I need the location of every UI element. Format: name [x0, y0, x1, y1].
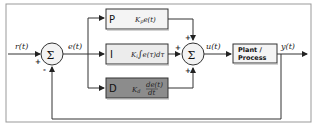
svg-text:de(t): de(t) — [146, 81, 163, 89]
plant-block: Plant / Process — [233, 44, 278, 64]
svg-text:P: P — [109, 14, 115, 25]
sigma-icon: Σ — [188, 49, 196, 62]
output-label: y(t) — [280, 42, 295, 51]
d-block: D Kd de(t) dt — [106, 78, 169, 99]
svg-text:D: D — [109, 83, 117, 94]
reference-label: r(t) — [15, 42, 28, 51]
p-block: P Kpe(t) — [106, 9, 169, 30]
minus-sign: - — [43, 66, 46, 74]
plus-sign: + — [175, 44, 181, 52]
summing-junction-2: Σ — [182, 43, 204, 65]
svg-text:dt: dt — [148, 89, 155, 97]
i-equation: Ki∫e(τ)dτ — [130, 49, 165, 59]
p-equation: Kpe(t) — [134, 16, 156, 25]
summing-junction-1: Σ — [41, 43, 63, 65]
plus-sign: + — [185, 34, 191, 42]
d-equation: Kd — [131, 86, 140, 94]
sigma-icon: Σ — [47, 49, 55, 62]
plus-sign: + — [35, 58, 41, 66]
svg-text:I: I — [110, 49, 113, 60]
error-label: e(t) — [68, 42, 82, 51]
svg-text:Process: Process — [238, 54, 267, 62]
svg-text:Plant /: Plant / — [238, 46, 262, 54]
pid-diagram: r(t) Σ + - e(t) P Kpe(t) I Ki∫e(τ)dτ D K… — [0, 0, 315, 128]
plus-sign: + — [185, 67, 191, 75]
i-block: I Ki∫e(τ)dτ — [106, 44, 169, 65]
control-label: u(t) — [206, 42, 221, 51]
